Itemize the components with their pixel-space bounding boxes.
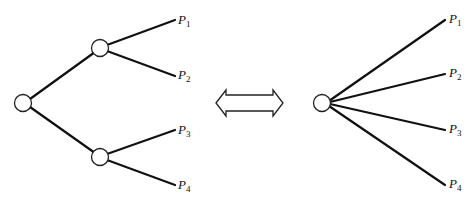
edge-upper-to-p1	[107, 20, 175, 45]
lower-internal-node	[92, 149, 109, 166]
leaf-label-p3: P3	[177, 122, 191, 139]
leaf-label-p3: P3	[448, 121, 462, 138]
upper-internal-node	[92, 40, 109, 57]
edge-lower-to-p4	[107, 160, 175, 185]
double-headed-arrow-icon	[216, 90, 283, 116]
leaf-label-p2: P2	[448, 65, 461, 82]
edge-root-to-upper	[30, 52, 95, 99]
leaf-label-p2: P2	[177, 67, 190, 84]
leaf-label-p1: P1	[177, 12, 190, 29]
edge-to-p3	[330, 104, 445, 130]
leaf-label-p1: P1	[448, 11, 461, 28]
edge-lower-to-p3	[107, 130, 175, 154]
left-binary-tree: P1 P2 P3 P4	[15, 12, 191, 194]
tree-equivalence-diagram: P1 P2 P3 P4 P1 P2 P3 P4	[0, 0, 474, 203]
root-node	[314, 95, 331, 112]
edge-upper-to-p2	[107, 51, 175, 76]
leaf-label-p4: P4	[177, 177, 191, 194]
root-node	[15, 95, 32, 112]
edge-root-to-lower	[30, 107, 95, 153]
leaf-label-p4: P4	[448, 176, 462, 193]
right-star-tree: P1 P2 P3 P4	[314, 11, 462, 193]
